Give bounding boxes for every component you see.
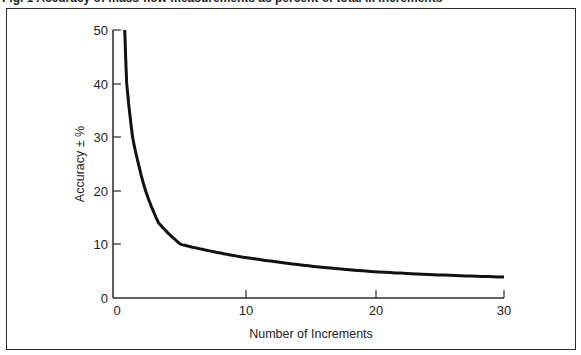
x-tick-label: 10: [239, 303, 253, 318]
x-ticks: [246, 290, 504, 298]
y-tick-label: 10: [94, 237, 108, 252]
x-axis-title: Number of Increments: [249, 327, 373, 341]
y-tick-label: 20: [94, 184, 108, 199]
y-tick-label: 50: [94, 23, 108, 38]
line-chart: 50 40 30 20 10 0 0 10 20 30 Number of In…: [0, 0, 581, 355]
y-axis-title: Accuracy ± %: [73, 126, 87, 202]
x-tick-label: 20: [369, 303, 383, 318]
y-tick-label: 40: [94, 77, 108, 92]
y-tick-label: 0: [101, 291, 108, 306]
y-tick-label: 30: [94, 130, 108, 145]
x-tick-label: 0: [113, 303, 120, 318]
x-tick-label: 30: [497, 303, 511, 318]
accuracy-curve: [125, 30, 504, 277]
y-ticks: [113, 30, 121, 244]
